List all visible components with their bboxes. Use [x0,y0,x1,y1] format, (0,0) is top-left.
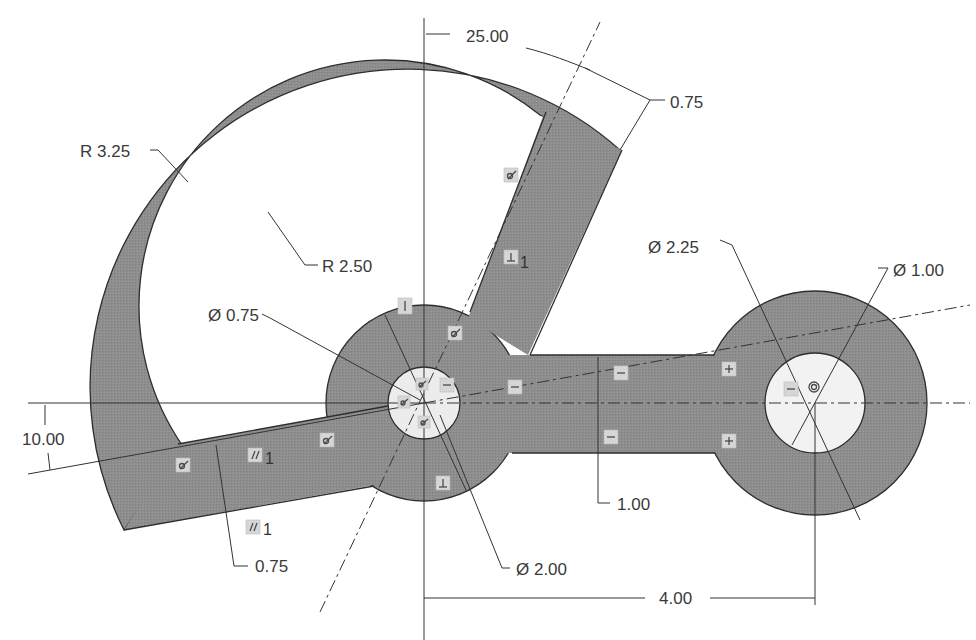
parallel-icon[interactable] [248,448,262,462]
dim-arm-width-left[interactable]: 0.75 [255,557,288,576]
perpendicular-icon[interactable] [436,476,450,490]
parallel-index-b: 1 [263,521,272,538]
symmetric-icon[interactable] [722,434,736,448]
part-profile[interactable] [90,60,927,530]
dim-outer-radius[interactable]: R 3.25 [80,142,130,161]
horizontal-icon[interactable] [614,366,628,380]
horizontal-icon[interactable] [784,382,798,396]
dim-arm-width-horizontal[interactable]: 1.00 [617,495,650,514]
horizontal-icon[interactable] [440,378,454,392]
diagonal-arm[interactable] [468,114,622,355]
parallel-icon[interactable] [246,520,260,534]
tangent-icon[interactable] [504,168,518,182]
tangent-icon[interactable] [448,326,462,340]
tangent-icon[interactable] [418,416,430,428]
tangent-icon[interactable] [416,378,428,390]
dim-angle-left[interactable]: 10.00 [22,430,65,449]
perpendicular-icon[interactable] [504,250,518,264]
horizontal-icon[interactable] [508,380,522,394]
tangent-icon[interactable] [320,433,334,447]
dim-angle-top[interactable]: 25.00 [466,27,509,46]
symmetric-icon[interactable] [722,362,736,376]
dim-hub-hole-diameter[interactable]: Ø 0.75 [208,306,259,325]
dim-hub-diameter[interactable]: Ø 2.00 [516,560,567,579]
sketch-canvas[interactable]: 25.00 0.75 R 3.25 R 2.50 Ø 0.75 Ø 2.25 Ø… [0,0,976,640]
horizontal-icon[interactable] [604,430,618,444]
vertical-icon[interactable] [398,298,412,314]
dim-center-distance[interactable]: 4.00 [659,589,692,608]
parallel-index-a: 1 [265,450,274,467]
dim-boss-outer-diameter[interactable]: Ø 2.25 [648,238,699,257]
dim-inner-radius[interactable]: R 2.50 [322,257,372,276]
tangent-icon[interactable] [176,458,190,472]
centerline-25deg [320,22,600,612]
dim-boss-hole-diameter[interactable]: Ø 1.00 [893,261,944,280]
perpendicular-index: 1 [520,254,529,271]
dim-arm-width-top[interactable]: 0.75 [670,93,703,112]
tangent-icon[interactable] [398,396,410,408]
